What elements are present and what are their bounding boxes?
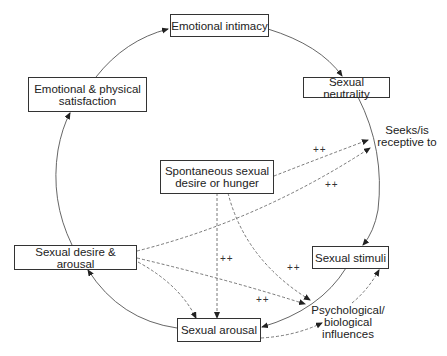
dashed-psych-to-stimuli — [352, 270, 379, 303]
node-label: Sexual neutrality — [304, 76, 389, 100]
node-label-line1: Spontaneous sexual — [165, 165, 269, 177]
sexual-response-cycle-diagram: Emotional intimacy Sexual neutrality Emo… — [0, 0, 447, 356]
node-label-line2: satisfaction — [59, 95, 117, 107]
arrow-intimacy-to-neutrality — [268, 29, 342, 76]
node-emotional-physical-satisfaction: Emotional & physical satisfaction — [28, 77, 147, 112]
node-label: Sexual stimuli — [315, 252, 386, 264]
arrow-neutrality-to-stimuli — [358, 97, 379, 245]
node-emotional-intimacy: Emotional intimacy — [170, 14, 269, 37]
enhancer-plus-2: ++ — [325, 179, 339, 190]
enhancer-plus-5: ++ — [256, 294, 270, 305]
label-psychological-biological: Psychological/ biological influences — [310, 304, 386, 340]
node-sexual-arousal: Sexual arousal — [177, 318, 261, 342]
label-seeks-receptive: Seeks/is receptive to — [374, 124, 440, 148]
node-sexual-desire-arousal: Sexual desire & arousal — [14, 245, 137, 270]
arrow-satisfaction-to-intimacy — [96, 29, 168, 77]
dashed-desire-to-psych — [137, 258, 305, 304]
node-sexual-neutrality: Sexual neutrality — [303, 77, 390, 98]
arrow-desire-to-satisfaction — [56, 113, 72, 245]
enhancer-plus-4: ++ — [287, 262, 301, 273]
label-line3: influences — [310, 328, 386, 340]
label-line1: Seeks/is — [374, 124, 440, 136]
node-label: Emotional intimacy — [171, 20, 268, 32]
enhancer-plus-3: ++ — [220, 253, 234, 264]
node-label: Sexual arousal — [181, 324, 257, 336]
enhancer-plus-1: ++ — [313, 144, 327, 155]
node-sexual-stimuli: Sexual stimuli — [312, 246, 389, 269]
node-label: Sexual desire & arousal — [15, 246, 136, 270]
node-label-line2: desire or hunger — [175, 177, 259, 189]
label-line2: biological — [310, 316, 386, 328]
node-label-line1: Emotional & physical — [34, 83, 141, 95]
label-line1: Psychological/ — [310, 304, 386, 316]
label-line2: receptive to — [374, 136, 440, 148]
dashed-spontaneous-to-psych — [228, 193, 310, 300]
node-spontaneous-desire: Spontaneous sexual desire or hunger — [160, 160, 274, 194]
